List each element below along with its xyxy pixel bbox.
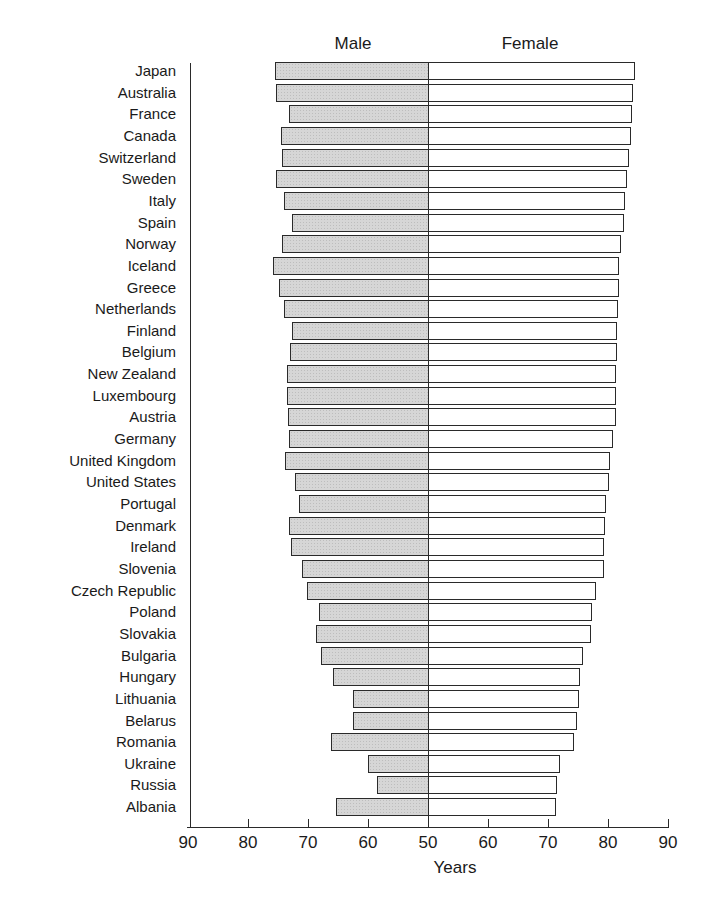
x-tick-label: 90 [179,833,198,853]
male-bar [289,105,429,123]
female-bar [428,755,560,773]
female-bar [428,430,613,448]
male-bar [289,430,429,448]
female-bar [428,322,617,340]
male-bar [284,192,429,210]
female-bar [428,690,579,708]
male-bar [281,127,429,145]
female-bar [428,538,604,556]
male-bar [289,517,429,535]
male-bar [368,755,429,773]
country-label: Switzerland [98,149,176,167]
male-bar [282,149,429,167]
male-bar [276,170,429,188]
x-axis-tick [668,819,669,828]
male-bar [273,257,429,275]
female-bar [428,712,577,730]
country-label: United States [86,473,176,491]
male-bar [353,690,429,708]
female-series-title: Female [502,34,559,54]
female-bar [428,365,616,383]
country-label: Italy [148,192,176,210]
male-bar [331,733,429,751]
x-axis-tick [608,819,609,828]
x-tick-label: 60 [479,833,498,853]
female-bar [428,776,557,794]
country-label: Slovakia [119,625,176,643]
country-label: Romania [116,733,176,751]
male-bar [353,712,429,730]
female-bar [428,127,631,145]
country-label: Germany [114,430,176,448]
male-bar [285,452,429,470]
country-label: Czech Republic [71,582,176,600]
male-bar [275,62,429,80]
female-bar [428,300,618,318]
female-bar [428,733,574,751]
female-bar [428,408,616,426]
female-bar [428,517,605,535]
male-bar [377,776,429,794]
y-axis-line [190,63,191,828]
female-bar [428,343,617,361]
male-bar [302,560,429,578]
female-bar [428,798,556,816]
country-label: Canada [123,127,176,145]
country-label: Japan [135,62,176,80]
country-label: Denmark [115,517,176,535]
x-axis-tick [488,819,489,828]
female-bar [428,560,604,578]
male-bar [282,235,429,253]
male-bar [336,798,429,816]
female-bar [428,582,596,600]
x-axis-tick [548,819,549,828]
x-axis-tick [248,819,249,828]
x-tick-label: 50 [419,833,438,853]
country-label: Finland [127,322,176,340]
x-tick-label: 60 [359,833,378,853]
male-bar [279,279,429,297]
female-bar [428,214,624,232]
female-bar [428,603,592,621]
female-bar [428,387,616,405]
female-bar [428,495,606,513]
female-bar [428,62,635,80]
country-label: New Zealand [88,365,176,383]
male-bar [287,365,429,383]
male-bar [291,538,429,556]
x-axis-tick [428,819,429,828]
female-bar [428,668,580,686]
female-bar [428,257,619,275]
male-bar [287,387,429,405]
x-tick-label: 80 [599,833,618,853]
x-axis-tick [368,819,369,828]
country-label: Slovenia [118,560,176,578]
country-label: Russia [130,776,176,794]
x-tick-label: 70 [539,833,558,853]
male-bar [321,647,429,665]
country-label: Norway [125,235,176,253]
male-bar [295,473,429,491]
country-label: France [129,105,176,123]
male-series-title: Male [335,34,372,54]
male-bar [292,214,429,232]
male-bar [292,322,429,340]
life-expectancy-chart: Male Female JapanAustraliaFranceCanadaSw… [0,0,715,901]
country-label: Portugal [120,495,176,513]
female-bar [428,170,627,188]
x-axis-tick [308,819,309,828]
country-label: Luxembourg [93,387,176,405]
male-bar [276,84,429,102]
country-label: Poland [129,603,176,621]
x-tick-label: 80 [239,833,258,853]
female-bar [428,625,591,643]
x-tick-label: 70 [299,833,318,853]
male-bar [316,625,429,643]
female-bar [428,149,629,167]
country-label: Sweden [122,170,176,188]
female-bar [428,452,610,470]
male-bar [307,582,429,600]
country-label: Iceland [128,257,176,275]
country-label: Lithuania [115,690,176,708]
male-bar [319,603,429,621]
